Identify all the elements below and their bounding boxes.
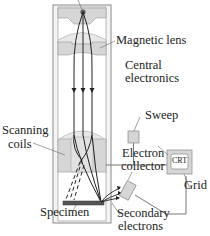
magnetic-lens-label: Magnetic lens: [116, 34, 186, 46]
scanning-coils-label-line1: Scanning: [2, 124, 49, 136]
scanning-coils-label-line2: coils: [8, 138, 32, 150]
electron-collector-label-line2: collector: [121, 160, 165, 172]
grid-label: Grid: [184, 179, 207, 191]
sweep-label: Sweep: [145, 109, 178, 121]
secondary-electrons-label-line1: Secondary: [117, 207, 170, 219]
secondary-electrons-label-line2: electrons: [118, 220, 163, 232]
central-electronics-label-line1: Central: [125, 59, 162, 71]
central-electronics-leader: [134, 117, 140, 131]
collector-leader: [128, 172, 132, 180]
se-arrow-3: [116, 196, 120, 200]
electron-collector-label-line1: Electron: [122, 147, 164, 159]
electron-collector: [119, 181, 136, 201]
central-electronics-box: [128, 131, 139, 143]
crt-label: CRT: [172, 156, 187, 165]
central-electronics-label-line2: electronics: [125, 72, 179, 84]
specimen-label: Specimen: [40, 206, 89, 218]
sem-diagram: CRT Magnetic lens Central electronics Sw…: [0, 0, 210, 236]
